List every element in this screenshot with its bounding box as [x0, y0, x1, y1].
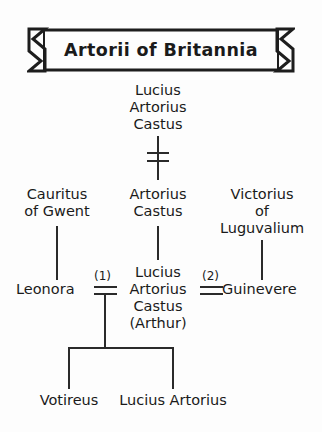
- person-artorius-castus: Artorius Castus: [108, 186, 208, 220]
- person-name-line: Leonora: [16, 281, 96, 298]
- person-name-line: Victorius: [206, 186, 318, 203]
- person-name-line: Castus: [113, 298, 203, 315]
- sibling-drop-lucius-artorius: [172, 347, 174, 389]
- marriage-bar-first-upper: [94, 286, 117, 288]
- marriage-bar-upper: [147, 152, 169, 154]
- marriage-order-label-second: (2): [202, 270, 219, 282]
- title-banner: Artorii of Britannia: [27, 27, 295, 73]
- descent-line-cauritus: [56, 226, 58, 280]
- person-votireus: Votireus: [24, 392, 114, 409]
- person-name-line: Luguvalium: [206, 220, 318, 237]
- person-name-line: Votireus: [24, 392, 114, 409]
- person-name-line: Lucius: [108, 82, 208, 99]
- person-name-line: Artorius: [113, 281, 203, 298]
- person-victorius-of-luguvalium: Victorius of Luguvalium: [206, 186, 318, 237]
- person-cauritus-of-gwent: Cauritus of Gwent: [7, 186, 107, 220]
- person-name-line: Lucius Artorius: [117, 392, 229, 409]
- person-name-line: Cauritus: [7, 186, 107, 203]
- person-lucius-artorius: Lucius Artorius: [117, 392, 229, 409]
- family-tree-diagram: Artorii of Britannia Lucius Artorius Cas…: [0, 0, 322, 432]
- person-name-line: of Gwent: [7, 203, 107, 220]
- marriage-order-label-first: (1): [94, 270, 111, 282]
- descent-line-arthur-leonora: [104, 295, 106, 348]
- sibling-bracket-horizontal: [68, 347, 174, 349]
- descent-line-artorius-castus: [157, 226, 159, 260]
- person-name-line: Guinevere: [222, 281, 318, 298]
- person-name-line: Lucius: [113, 264, 203, 281]
- person-name-line: Artorius: [108, 99, 208, 116]
- person-guinevere: Guinevere: [222, 281, 318, 298]
- marriage-bar-lower: [147, 160, 169, 162]
- descent-line-progenitor: [157, 136, 159, 180]
- descent-line-victorius: [261, 240, 263, 280]
- marriage-bar-second-upper: [200, 286, 223, 288]
- person-name-line: (Arthur): [113, 315, 203, 332]
- marriage-bar-second-lower: [200, 293, 223, 295]
- person-name-line: Castus: [108, 116, 208, 133]
- page-title: Artorii of Britannia: [27, 27, 295, 73]
- person-arthur: Lucius Artorius Castus (Arthur): [113, 264, 203, 332]
- sibling-drop-votireus: [68, 347, 70, 389]
- person-name-line: Castus: [108, 203, 208, 220]
- person-name-line: Artorius: [108, 186, 208, 203]
- person-name-line: of: [206, 203, 318, 220]
- person-lucius-artorius-castus-elder: Lucius Artorius Castus: [108, 82, 208, 133]
- person-leonora: Leonora: [16, 281, 96, 298]
